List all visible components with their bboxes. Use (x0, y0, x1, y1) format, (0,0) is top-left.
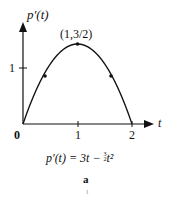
curve-line (23, 44, 132, 124)
point-peak (76, 42, 80, 46)
point-three-halves (109, 74, 113, 78)
formula-rhs: t² (106, 151, 113, 165)
y-tick-1-label: 1 (9, 61, 15, 76)
x-tick-1-label: 1 (75, 128, 81, 143)
stray-mark: ı (86, 186, 89, 196)
panel-label: a (83, 173, 89, 185)
x-tick-2-label: 2 (129, 128, 135, 143)
point-half (43, 74, 47, 78)
y-axis-label: p′(t) (27, 7, 49, 23)
x-axis-label: t (158, 116, 161, 131)
formula-lhs: p′(t) = 3t − (46, 151, 103, 165)
x-axis-arrow-icon (144, 120, 154, 128)
formula: p′(t) = 3t − 32t² (46, 151, 113, 166)
origin-label: 0 (14, 128, 20, 143)
peak-label: (1,3/2) (60, 27, 92, 42)
y-axis-arrow-icon (19, 22, 27, 32)
